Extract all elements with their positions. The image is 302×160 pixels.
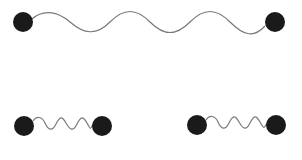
spring-mass-diagram <box>0 0 302 160</box>
mass-left <box>13 12 33 32</box>
spring-short-right <box>206 116 267 128</box>
mass-right <box>265 12 285 32</box>
mass-left <box>14 116 34 136</box>
spring-long <box>32 12 265 34</box>
mass-right <box>92 116 112 136</box>
spring-system-long <box>13 12 285 34</box>
spring-system-short-left <box>14 116 112 136</box>
spring-short-left <box>33 117 93 129</box>
mass-left <box>187 115 207 135</box>
mass-right <box>266 115 286 135</box>
spring-system-short-right <box>187 115 286 135</box>
